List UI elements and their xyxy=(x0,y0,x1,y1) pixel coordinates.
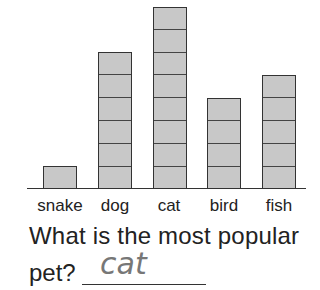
bar-segment-divider xyxy=(154,120,186,121)
bar-segment-divider xyxy=(263,166,295,167)
bar-segment-divider xyxy=(263,143,295,144)
category-label-bird: bird xyxy=(194,196,254,216)
category-label-fish: fish xyxy=(249,196,309,216)
bar-segment-divider xyxy=(99,143,131,144)
question-text: What is the most popular xyxy=(29,222,299,250)
bar-segment-divider xyxy=(99,166,131,167)
answer-blank-line xyxy=(82,284,206,285)
bar-segment-divider xyxy=(99,74,131,75)
handwritten-answer: cat xyxy=(100,246,147,281)
bar-segment-divider xyxy=(99,120,131,121)
category-label-snake: snake xyxy=(30,196,90,216)
bar-segment-divider xyxy=(208,120,240,121)
bar-segment-divider xyxy=(99,97,131,98)
bar-segment-divider xyxy=(263,97,295,98)
bar-segment-divider xyxy=(154,97,186,98)
bar-segment-divider xyxy=(154,29,186,30)
question-text-line2: pet? xyxy=(29,259,76,287)
bar-segment-divider xyxy=(208,143,240,144)
pet-bar-chart xyxy=(0,0,320,200)
bar-segment-divider xyxy=(154,74,186,75)
bar-segment-divider xyxy=(208,166,240,167)
category-label-dog: dog xyxy=(85,196,145,216)
bar-snake xyxy=(43,166,77,189)
bar-bird xyxy=(207,98,241,189)
bar-cat xyxy=(153,7,187,189)
bar-segment-divider xyxy=(154,166,186,167)
category-label-cat: cat xyxy=(139,196,199,216)
bar-segment-divider xyxy=(154,143,186,144)
bar-segment-divider xyxy=(154,52,186,53)
bar-dog xyxy=(98,52,132,189)
bar-segment-divider xyxy=(263,120,295,121)
bar-fish xyxy=(262,75,296,189)
